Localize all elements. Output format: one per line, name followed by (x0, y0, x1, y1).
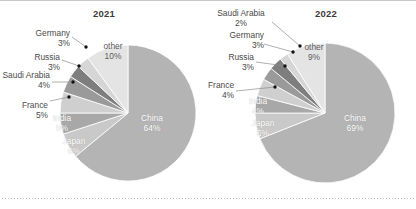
inside-label-india-2022-pct: 4% (249, 106, 267, 116)
outside-label-germany-pct: 3% (0, 38, 70, 48)
inside-label-japan-2022-name: Japan (252, 118, 275, 128)
leader-dot-france (67, 95, 70, 98)
inside-label-other-name: other (103, 41, 122, 51)
outside-label-germany-2022-name: Germany (230, 30, 264, 40)
inside-label-china-2022-pct: 69% (344, 123, 366, 133)
leader-line-germany (72, 37, 86, 47)
outside-label-saudi-arabia-2022-name: Saudi Arabia (217, 8, 265, 18)
inside-label-japan: Japan 6% (63, 136, 86, 156)
inside-label-india: India 5% (53, 113, 71, 133)
inside-label-china-2022: China 69% (344, 113, 366, 133)
inside-label-china: China 64% (141, 113, 163, 133)
inside-label-japan-2022-pct: 6% (252, 128, 275, 138)
leader-dot-russia (77, 64, 80, 67)
outside-label-france-name: France (22, 100, 48, 110)
leader-line-saudi-arabia-2022 (272, 22, 300, 46)
pie-chart-2022: 2022 Saudi Arabia 2% Germany 3% (208, 0, 416, 209)
inside-label-india-name: India (53, 113, 71, 123)
inside-label-japan-pct: 6% (63, 146, 86, 156)
inside-label-china-pct: 64% (141, 123, 163, 133)
outside-label-saudi-arabia-2022: Saudi Arabia 2% (208, 8, 274, 28)
outside-label-germany-2022: Germany 3% (208, 30, 264, 50)
outside-label-germany-2022-pct: 3% (208, 40, 264, 50)
outside-label-germany-name: Germany (36, 28, 70, 38)
outside-label-saudi-arabia-name: Saudi Arabia (3, 70, 51, 80)
leader-dot-russia-2022 (283, 64, 286, 67)
inside-label-other: other 10% (103, 41, 122, 61)
leader-dot-france-2022 (273, 85, 276, 88)
outside-label-russia-2022-pct: 3% (208, 62, 254, 72)
figure-canvas: 2021 Germany 3% Russia 3% (0, 0, 416, 209)
pie-slice-group-2022 (255, 43, 395, 183)
leader-dot-saudi-arabia (71, 80, 74, 83)
inside-label-japan-name: Japan (63, 136, 86, 146)
outside-label-russia-2022-name: Russia (228, 52, 254, 62)
outside-label-saudi-arabia-pct: 4% (0, 80, 50, 90)
outside-label-russia-name: Russia (34, 52, 60, 62)
inside-label-other-2022-name: other (304, 42, 323, 52)
leader-dot-germany-2022 (291, 50, 294, 53)
outside-label-france-pct: 5% (0, 110, 48, 120)
inside-label-india-2022: India 4% (249, 96, 267, 116)
leader-line-russia (62, 60, 79, 66)
outside-label-germany: Germany 3% (0, 28, 70, 48)
leader-dot-germany (84, 45, 87, 48)
inside-label-china-2022-name: China (344, 113, 366, 123)
outside-label-france-2022: France 4% (208, 80, 234, 100)
inside-label-other-pct: 10% (103, 51, 122, 61)
inside-label-india-pct: 5% (53, 123, 71, 133)
inside-label-china-name: China (141, 113, 163, 123)
outside-label-saudi-arabia: Saudi Arabia 4% (0, 70, 50, 90)
leader-dot-saudi-arabia-2022 (298, 44, 301, 47)
leader-line-germany-2022 (264, 44, 293, 52)
outside-label-france-2022-pct: 4% (208, 90, 234, 100)
outside-label-russia-2022: Russia 3% (208, 52, 254, 72)
inside-label-india-2022-name: India (249, 96, 267, 106)
inside-label-other-2022: other 9% (304, 42, 323, 62)
outside-label-france: France 5% (0, 100, 48, 120)
inside-label-japan-2022: Japan 6% (252, 118, 275, 138)
inside-label-other-2022-pct: 9% (304, 52, 323, 62)
pie-chart-2021: 2021 Germany 3% Russia 3% (0, 0, 208, 209)
outside-label-saudi-arabia-2022-pct: 2% (208, 18, 274, 28)
outside-label-france-2022-name: France (208, 80, 234, 90)
